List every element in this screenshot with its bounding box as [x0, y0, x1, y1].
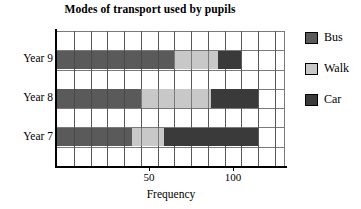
x-axis-line	[55, 166, 287, 168]
chart-title: Modes of transport used by pupils	[0, 3, 300, 15]
gridline-vertical-overlay	[74, 31, 75, 166]
x-axis-title: Frequency	[57, 188, 285, 200]
plot-area	[57, 31, 285, 166]
x-tick-label-100: 100	[213, 171, 253, 183]
gridline-vertical-overlay	[158, 31, 159, 166]
legend-label: Walk	[324, 61, 349, 76]
y-category-label-year8: Year 8	[2, 91, 53, 103]
legend-label: Car	[324, 92, 341, 107]
legend-item-walk[interactable]: Walk	[305, 61, 361, 92]
gridline-vertical-overlay	[91, 31, 92, 166]
bar-segment-year9-car	[218, 51, 241, 69]
legend-item-bus[interactable]: Bus	[305, 30, 361, 61]
legend-item-car[interactable]: Car	[305, 92, 361, 123]
bar-segment-year7-bus	[57, 128, 132, 146]
chart-container: Modes of transport used by pupils Year 9…	[0, 0, 361, 209]
bar-segment-year8-walk	[141, 89, 211, 107]
bar-segment-year7-walk	[132, 128, 164, 146]
y-axis-line	[55, 29, 57, 168]
gridline-vertical-overlay	[241, 31, 242, 166]
gridline-vertical-overlay	[258, 31, 259, 166]
legend-swatch-car-icon	[305, 94, 318, 106]
legend-label: Bus	[324, 30, 343, 45]
gridline-vertical-overlay	[174, 31, 175, 166]
legend-swatch-bus-icon	[305, 32, 318, 44]
y-category-label-year9: Year 9	[2, 52, 53, 64]
gridline-vertical-overlay	[225, 31, 226, 166]
legend-swatch-walk-icon	[305, 63, 318, 75]
x-tick-label-50: 50	[129, 171, 169, 183]
gridline-vertical-overlay	[141, 31, 142, 166]
bar-segment-year7-car	[164, 128, 258, 146]
gridline-vertical-overlay	[124, 31, 125, 166]
gridline-vertical-overlay	[208, 31, 209, 166]
bar-segment-year8-bus	[57, 89, 141, 107]
gridline-vertical-overlay	[191, 31, 192, 166]
bar-segment-year9-walk	[174, 51, 218, 69]
bar-segment-year8-car	[211, 89, 258, 107]
y-category-label-year7: Year 7	[2, 130, 53, 142]
chart-legend: BusWalkCar	[305, 30, 361, 123]
gridline-vertical-overlay	[275, 31, 276, 166]
gridline-vertical-overlay	[107, 31, 108, 166]
